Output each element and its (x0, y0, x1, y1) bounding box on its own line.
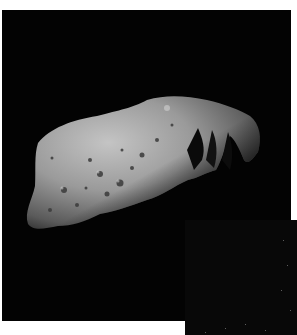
inset-photo (185, 220, 297, 335)
